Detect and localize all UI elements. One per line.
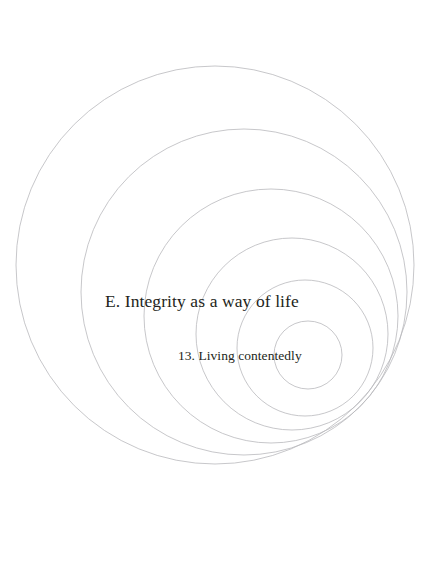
page-canvas: E. Integrity as a way of life 13. Living… <box>0 0 432 572</box>
section-title: E. Integrity as a way of life <box>105 291 299 311</box>
text-layer: E. Integrity as a way of life 13. Living… <box>0 0 432 572</box>
chapter-title: 13. Living contentedly <box>178 348 302 364</box>
